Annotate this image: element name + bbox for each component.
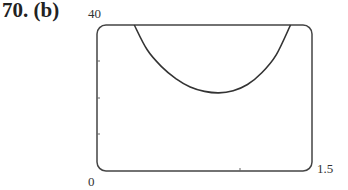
plot-area (0, 0, 348, 190)
data-curve (134, 25, 290, 93)
